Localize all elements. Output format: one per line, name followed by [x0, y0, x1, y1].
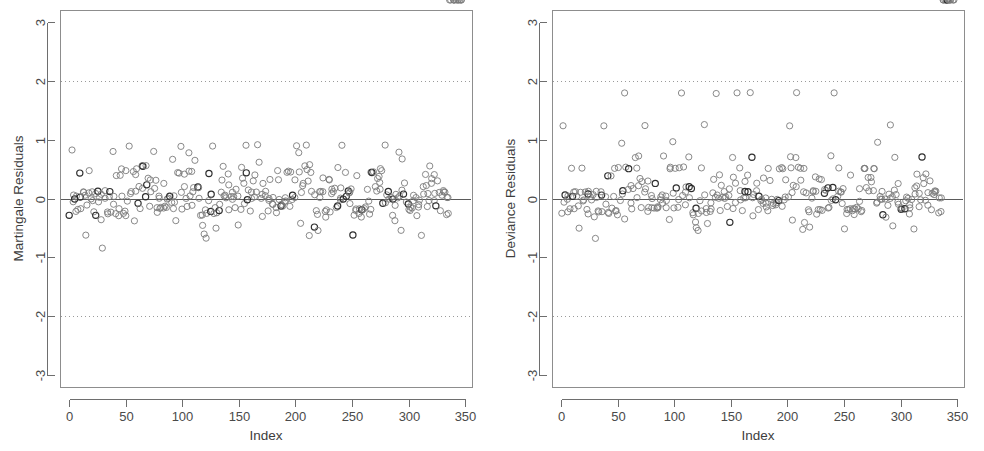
data-point	[727, 219, 733, 225]
data-point	[729, 154, 735, 160]
data-point	[680, 164, 686, 170]
data-point	[382, 142, 388, 148]
data-point	[399, 156, 405, 162]
x-tick-label: 300	[399, 409, 421, 424]
data-point	[875, 139, 881, 145]
data-point	[912, 185, 918, 191]
data-point	[730, 174, 736, 180]
data-point	[111, 193, 117, 199]
data-point	[666, 216, 672, 222]
data-point	[243, 142, 249, 148]
data-point	[298, 189, 304, 195]
data-point	[615, 164, 621, 170]
data-point	[247, 208, 253, 214]
scatter-plot-svg: -3-2-10123050100150200250300350IndexMart…	[0, 0, 492, 451]
data-point	[890, 223, 896, 229]
data-point	[870, 188, 876, 194]
data-point	[110, 148, 116, 154]
data-point	[314, 211, 320, 217]
x-axis: 050100150200250300350	[66, 400, 476, 424]
data-point	[704, 220, 710, 226]
data-points	[66, 0, 464, 251]
data-point	[585, 211, 591, 217]
x-tick-label: 0	[66, 409, 73, 424]
data-point	[603, 201, 609, 207]
y-tick-label: -2	[33, 311, 48, 323]
data-point	[296, 169, 302, 175]
data-point	[226, 182, 232, 188]
data-point	[730, 205, 736, 211]
data-point	[69, 147, 75, 153]
data-point	[742, 178, 748, 184]
scatter-plot-svg: -3-2-10123050100150200250300350IndexDevi…	[492, 0, 984, 451]
data-point	[200, 222, 206, 228]
data-point	[414, 213, 420, 219]
data-point	[701, 121, 707, 127]
data-point	[807, 224, 813, 230]
data-point	[828, 153, 834, 159]
y-tick-label: 0	[33, 196, 48, 203]
deviance-residuals-panel: -3-2-10123050100150200250300350IndexDevi…	[492, 0, 984, 451]
data-point	[692, 219, 698, 225]
data-point	[927, 178, 933, 184]
data-point	[335, 203, 341, 209]
data-point	[238, 164, 244, 170]
data-point	[434, 178, 440, 184]
data-point	[801, 219, 807, 225]
data-point	[592, 235, 598, 241]
data-point	[601, 123, 607, 129]
data-point	[895, 180, 901, 186]
data-point	[424, 203, 430, 209]
data-point	[576, 225, 582, 231]
data-point	[726, 186, 732, 192]
data-point	[161, 180, 167, 186]
data-point	[260, 180, 266, 186]
data-point	[711, 176, 717, 182]
x-tick-label: 200	[285, 409, 307, 424]
y-tick-label: -2	[525, 311, 540, 323]
data-point	[892, 154, 898, 160]
data-point	[400, 191, 406, 197]
data-point	[697, 198, 703, 204]
data-point	[755, 206, 761, 212]
data-point	[235, 222, 241, 228]
data-point	[148, 189, 154, 195]
data-point	[635, 183, 641, 189]
data-point	[652, 180, 658, 186]
martingale-residuals-panel: -3-2-10123050100150200250300350IndexMart…	[0, 0, 492, 451]
residual-plots-figure: -3-2-10123050100150200250300350IndexMart…	[0, 0, 984, 451]
data-point	[750, 213, 756, 219]
x-tick-label: 250	[342, 409, 364, 424]
data-point	[678, 90, 684, 96]
data-point	[267, 176, 273, 182]
data-point	[88, 196, 94, 202]
x-tick-label: 100	[172, 409, 194, 424]
y-axis-title: Martingale Residuals	[11, 135, 26, 261]
data-point	[737, 165, 743, 171]
data-point	[793, 90, 799, 96]
data-point	[422, 171, 428, 177]
data-point	[916, 204, 922, 210]
y-tick-label: 3	[525, 19, 540, 26]
data-point	[99, 245, 105, 251]
data-point	[84, 202, 90, 208]
data-point	[919, 154, 925, 160]
y-tick-label: 2	[33, 78, 48, 85]
y-tick-label: 0	[525, 196, 540, 203]
data-point	[629, 206, 635, 212]
data-point	[611, 193, 617, 199]
data-point	[393, 191, 399, 197]
y-tick-label: 1	[33, 137, 48, 144]
data-point	[698, 165, 704, 171]
y-tick-label: 2	[525, 78, 540, 85]
data-point	[928, 207, 934, 213]
data-point	[819, 207, 825, 213]
data-point	[765, 165, 771, 171]
data-point	[147, 203, 153, 209]
x-tick-label: 50	[611, 409, 625, 424]
data-point	[275, 168, 281, 174]
data-point	[256, 159, 262, 165]
data-point	[196, 195, 202, 201]
data-point	[77, 170, 83, 176]
data-point	[809, 195, 815, 201]
